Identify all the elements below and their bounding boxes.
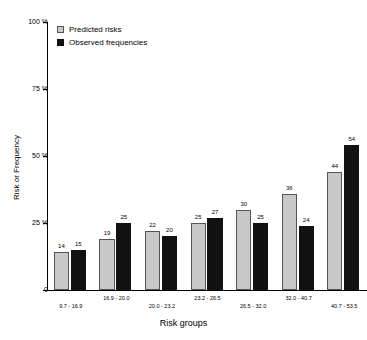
bar-value-label: 25 <box>251 214 270 221</box>
bar-value-label: 25 <box>114 214 133 221</box>
legend-item: Observed frequencies <box>57 37 147 48</box>
bar-predicted <box>145 231 160 290</box>
bar-predicted <box>191 223 206 290</box>
y-axis-tick-label: 50 % <box>0 152 48 160</box>
bar-predicted <box>327 172 342 290</box>
y-axis-title: Risk or Frequency <box>12 135 21 200</box>
legend-item-label: Observed frequencies <box>69 38 147 47</box>
legend-item-label: Predicted risks <box>69 25 121 34</box>
y-axis-tick-label: 75 % <box>0 85 48 93</box>
x-axis-group-label: 40.7 - 53.5 <box>311 303 367 310</box>
bar-value-label: 30 <box>234 201 253 208</box>
predicted-swatch-icon <box>57 26 64 33</box>
y-axis-tick-label-text: 25 % <box>8 219 48 227</box>
bar-group: 1415 <box>48 22 94 290</box>
chart-legend: Predicted risksObserved frequencies <box>57 24 147 50</box>
bar-group: 4454 <box>321 22 367 290</box>
x-axis-group-label: 26.5 - 32.0 <box>220 303 286 310</box>
bar-predicted <box>236 210 251 290</box>
y-axis-tick-label: 25 % <box>0 219 48 227</box>
y-axis-tick-label: 0 <box>0 286 48 294</box>
x-axis-line <box>47 290 367 291</box>
bar-value-label: 44 <box>325 163 344 170</box>
bar-group: 1925 <box>94 22 140 290</box>
bar-chart: 025 %50 %75 %100 % Risk or Frequency Ris… <box>0 0 367 340</box>
bar-group: 3025 <box>230 22 276 290</box>
bar-observed <box>253 223 268 290</box>
plot-area: 1415192522202527302536244454 <box>48 22 367 290</box>
observed-swatch-icon <box>57 39 64 46</box>
bar-observed <box>344 145 359 290</box>
bar-observed <box>162 236 177 290</box>
bar-observed <box>207 218 222 290</box>
bar-value-label: 27 <box>205 209 224 216</box>
bar-group: 2220 <box>139 22 185 290</box>
bar-value-label: 36 <box>280 185 299 192</box>
bar-value-label: 20 <box>160 227 179 234</box>
legend-item: Predicted risks <box>57 24 147 35</box>
bar-predicted <box>99 239 114 290</box>
bar-observed <box>71 250 86 290</box>
bar-observed <box>116 223 131 290</box>
x-axis-group-label: 16.9 - 20.0 <box>84 295 150 302</box>
bar-value-label: 54 <box>342 136 361 143</box>
bar-value-label: 15 <box>69 241 88 248</box>
bar-value-label: 19 <box>97 230 116 237</box>
y-axis-tick-label-text: 100 % <box>8 18 48 26</box>
y-axis-tick-label: 100 % <box>0 18 48 26</box>
bar-value-label: 24 <box>297 217 316 224</box>
bar-observed <box>299 226 314 290</box>
x-axis-group-label: 20.0 - 23.2 <box>129 303 195 310</box>
y-axis-tick-label-text: 75 % <box>8 85 48 93</box>
bar-group: 2527 <box>185 22 231 290</box>
y-axis-tick-label-text: 0 <box>8 286 48 294</box>
x-axis-group-label: 32.0 - 40.7 <box>266 295 332 302</box>
bar-predicted <box>282 194 297 290</box>
bar-predicted <box>54 252 69 290</box>
x-axis-group-label: 9.7 - 16.9 <box>38 303 104 310</box>
x-axis-group-label: 23.2 - 26.5 <box>175 295 241 302</box>
x-axis-title: Risk groups <box>0 318 367 328</box>
bar-group: 3624 <box>276 22 322 290</box>
